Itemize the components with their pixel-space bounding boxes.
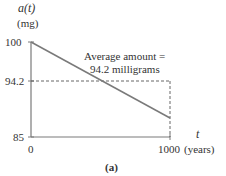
x-axis-unit: (years)	[184, 143, 215, 155]
annotation-line-2: 94.2 milligrams	[90, 63, 160, 75]
y-tick-label-85: 85	[13, 131, 24, 143]
x-tick-label-0: 0	[28, 143, 34, 155]
annotation-line-1: Average amount =	[84, 50, 165, 62]
y-axis-label: a(t)	[18, 2, 35, 14]
y-tick-label-94-2: 94.2	[5, 75, 24, 87]
panel-label: (a)	[105, 161, 118, 173]
y-axis-unit: (mg)	[17, 17, 38, 29]
x-axis-label: t	[196, 128, 199, 140]
y-tick-label-100: 100	[5, 36, 22, 48]
x-tick-label-1000: 1000	[158, 143, 180, 155]
